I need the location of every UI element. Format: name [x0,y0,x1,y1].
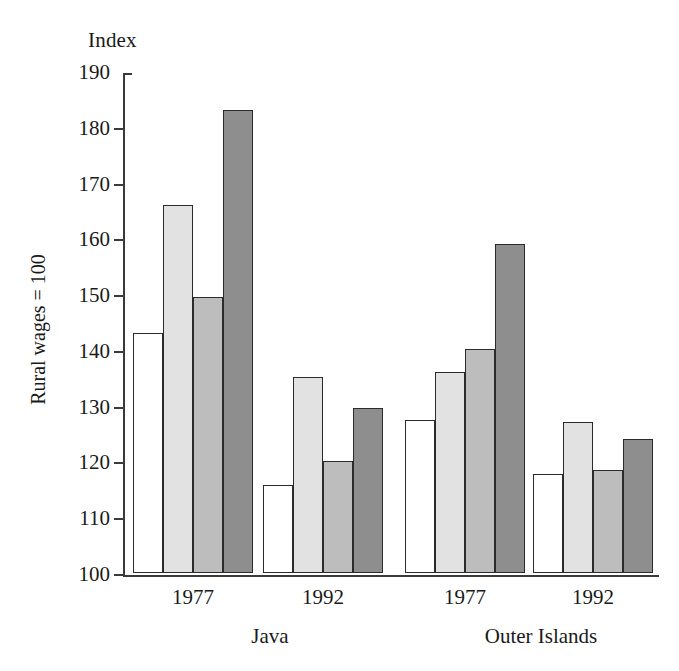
x-axis-region-label: Java [251,624,288,649]
y-axis-tick [114,128,124,130]
x-axis-period-label: 1977 [444,585,486,610]
index-axis-caption: Index [88,28,137,53]
y-axis-tick [114,462,124,464]
y-axis-tick-label: 100 [79,562,111,587]
x-axis-period-label: 1977 [172,585,214,610]
x-axis-period-label: 1992 [302,585,344,610]
bar [223,110,253,573]
bar [533,474,563,573]
bar [563,422,593,573]
y-axis-tick-label: 180 [79,116,111,141]
y-axis-tick-label: 190 [79,60,111,85]
y-axis-tick [114,295,124,297]
y-axis-top-cap [123,73,132,75]
x-axis-line [123,575,659,577]
y-axis-tick [114,407,124,409]
bar [193,297,223,573]
y-axis-tick-label: 170 [79,171,111,196]
bar [263,485,293,573]
y-axis-title: Rural wages = 100 [27,180,50,480]
y-axis-tick [114,184,124,186]
bar [495,244,525,573]
y-axis-tick [114,351,124,353]
y-axis-title-container: Rural wages = 100 [0,0,40,671]
bar [163,205,193,573]
x-axis-period-label: 1992 [572,585,614,610]
y-axis-tick-label: 120 [79,450,111,475]
y-axis-tick [114,574,124,576]
bar [323,461,353,573]
y-axis-line [123,73,125,576]
bar [133,333,163,573]
y-axis-tick-label: 110 [79,506,110,531]
y-axis-tick [114,239,124,241]
x-axis-region-label: Outer Islands [485,624,598,649]
bar [593,470,623,573]
bar [353,408,383,573]
bar [465,349,495,573]
y-axis-tick-label: 130 [79,394,111,419]
bar [405,420,435,573]
y-axis-tick [114,518,124,520]
bar [293,377,323,573]
y-axis-tick-label: 160 [79,227,111,252]
plot-area: 1001101201301401501601701801901977199219… [123,73,659,575]
y-axis-tick-label: 140 [79,339,111,364]
y-axis-tick-label: 150 [79,283,111,308]
bar [435,372,465,573]
bar [623,439,653,573]
bar-chart: Index Rural wages = 100 1001101201301401… [0,0,679,671]
